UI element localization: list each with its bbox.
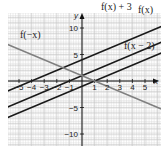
- y-tick-label: 5: [74, 51, 79, 60]
- y-tick-label: 10: [69, 24, 78, 33]
- y-tick-label: −10: [64, 130, 78, 139]
- x-tick-label: −5: [14, 83, 24, 92]
- x-tick-label: −2: [52, 83, 62, 92]
- label-fx: f(x): [138, 4, 153, 16]
- y-tick-label: −5: [69, 104, 79, 113]
- label-fx-minus-2: f(x − 2): [124, 40, 155, 52]
- x-tick-label: 4: [130, 83, 135, 92]
- label-f-neg-x: f(−x): [20, 29, 41, 41]
- x-tick-label: 1: [92, 83, 97, 92]
- x-tick-label: −4: [27, 83, 37, 92]
- function-transformations-chart: −5−4−3−2−112345105−5−10 f(x) + 3 f(x) f(…: [0, 0, 161, 146]
- x-tick-label: −3: [40, 83, 50, 92]
- x-tick-label: 5: [143, 83, 148, 92]
- x-tick-label: 2: [105, 83, 110, 92]
- x-tick-label: −1: [65, 83, 75, 92]
- x-tick-label: 3: [118, 83, 123, 92]
- label-fx-plus-3: f(x) + 3: [101, 1, 132, 13]
